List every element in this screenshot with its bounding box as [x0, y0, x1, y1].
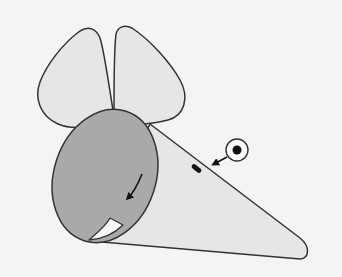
cone-mouse-diagram — [0, 0, 342, 277]
right-ear — [114, 26, 185, 124]
eye-callout-arrow — [214, 157, 227, 164]
eye-callout — [214, 139, 248, 164]
eye-callout-dot — [233, 146, 242, 155]
